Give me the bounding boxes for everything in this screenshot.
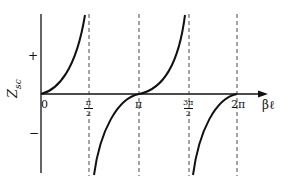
x-axis-arrow-icon — [258, 91, 268, 98]
y-axis-title: Zsc — [6, 79, 23, 98]
tick-label-three-half-pi-den: 2 — [186, 110, 191, 118]
x-axis-title: βℓ — [262, 99, 275, 111]
tick-label-two-pi: 2π — [231, 99, 245, 110]
impedance-plot — [0, 0, 285, 184]
curve-branch-1 — [41, 15, 85, 94]
y-axis-plus-label: + — [28, 50, 38, 62]
y-axis-minus-label: − — [29, 127, 39, 139]
tick-label-pi: π — [135, 99, 142, 110]
tick-label-half-pi-den: 2 — [86, 110, 91, 118]
tick-label-zero: 0 — [41, 99, 48, 110]
tick-label-half-pi-num: π — [86, 99, 91, 107]
y-axis-title-sub: sc — [13, 79, 23, 89]
tick-label-half-pi: π 2 — [84, 99, 93, 118]
tick-label-three-half-pi: 3π 2 — [183, 99, 193, 118]
curve-branch-2 — [94, 15, 185, 175]
y-axis-title-main: Z — [5, 89, 20, 98]
tick-label-three-half-pi-num: 3π — [183, 99, 193, 107]
